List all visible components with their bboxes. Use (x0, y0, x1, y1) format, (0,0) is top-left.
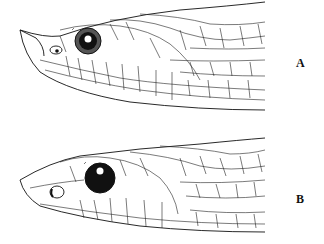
snake-head-a-drawing (0, 0, 324, 122)
panel-label-b: B (296, 192, 304, 207)
panel-label-a: A (296, 56, 305, 71)
snake-head-illustration-b: B (0, 122, 324, 244)
snake-head-illustration-a: A (0, 0, 324, 122)
snake-head-b-drawing (0, 122, 324, 244)
